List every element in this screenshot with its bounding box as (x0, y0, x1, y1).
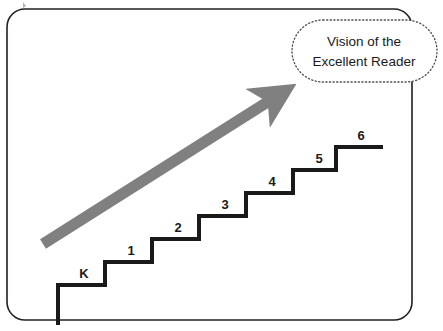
callout-line-2: Excellent Reader (313, 54, 416, 69)
step-label-2: 2 (174, 220, 181, 235)
staircase-diagram: Vision of the Excellent Reader K 1 2 3 4… (0, 0, 443, 331)
step-label-4: 4 (268, 174, 276, 189)
step-label-3: 3 (221, 197, 228, 212)
vision-callout-bubble (292, 20, 437, 82)
callout-line-1: Vision of the (327, 34, 401, 49)
step-label-1: 1 (127, 243, 134, 258)
step-label-5: 5 (315, 151, 322, 166)
print-artifact-mark (23, 2, 26, 8)
step-label-6: 6 (357, 128, 364, 143)
step-label-k: K (79, 266, 89, 281)
figure-container: Vision of the Excellent Reader K 1 2 3 4… (0, 0, 443, 331)
